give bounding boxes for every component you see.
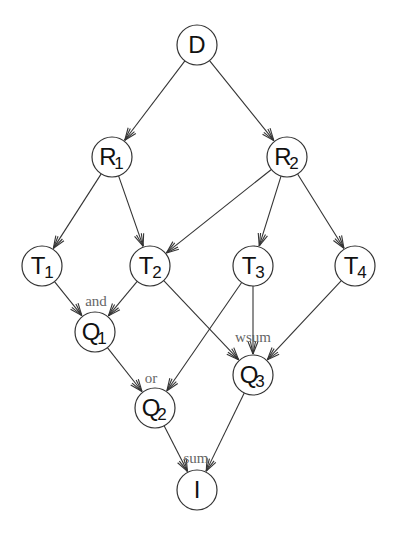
arrowhead-icon	[131, 379, 142, 391]
node-Q1: Q1	[75, 312, 115, 352]
edge-D-R2	[210, 61, 274, 141]
edge-R1-T1	[53, 174, 101, 249]
operator-label-wsum: wsum	[235, 329, 271, 345]
node-Q3: Q3	[233, 355, 273, 395]
edge-Q3-I	[206, 393, 244, 471]
arrowhead-icon	[53, 236, 64, 249]
node-label: I	[194, 476, 201, 503]
node-T1: T1	[22, 246, 62, 286]
node-subscript: 2	[157, 405, 166, 424]
dag-diagram: DR1R2T1T2T3T4Q1Q2Q3I andwsumorsum	[0, 0, 398, 539]
edge-R2-T2	[166, 169, 271, 252]
node-subscript: 2	[152, 263, 161, 282]
edge-Q1-Q2	[107, 348, 142, 392]
node-T4: T4	[335, 246, 375, 286]
operator-label-and: and	[85, 293, 107, 309]
edge-T4-Q3	[267, 281, 341, 360]
arrowhead-icon	[167, 378, 178, 391]
operator-label-sum: sum	[183, 450, 208, 466]
node-R2: R2	[267, 137, 307, 177]
nodes-layer: DR1R2T1T2T3T4Q1Q2Q3I	[22, 25, 375, 510]
edges-layer	[53, 61, 344, 472]
node-I: I	[177, 470, 217, 510]
node-subscript: 1	[114, 154, 123, 173]
node-subscript: 1	[97, 329, 106, 348]
node-subscript: 4	[357, 263, 366, 282]
edge-T3-Q2	[167, 282, 242, 390]
node-D: D	[177, 25, 217, 65]
node-subscript: 3	[255, 372, 264, 391]
node-T3: T3	[233, 246, 273, 286]
node-subscript: 1	[44, 263, 53, 282]
node-R1: R1	[92, 137, 132, 177]
edge-T1-Q1	[55, 282, 82, 316]
node-T2: T2	[130, 246, 170, 286]
arrowhead-icon	[125, 128, 136, 141]
edge-R2-T3	[258, 176, 281, 246]
node-Q2: Q2	[135, 388, 175, 428]
edge-T2-Q3	[164, 281, 239, 360]
node-label: D	[188, 31, 205, 58]
edge-R2-T4	[298, 174, 344, 248]
operator-label-or: or	[145, 370, 158, 386]
edge-T2-Q1	[108, 281, 137, 316]
edge-R1-T2	[119, 176, 144, 246]
node-subscript: 3	[255, 263, 264, 282]
node-subscript: 2	[289, 154, 298, 173]
arrowhead-icon	[333, 235, 343, 248]
edge-D-R1	[125, 61, 185, 140]
